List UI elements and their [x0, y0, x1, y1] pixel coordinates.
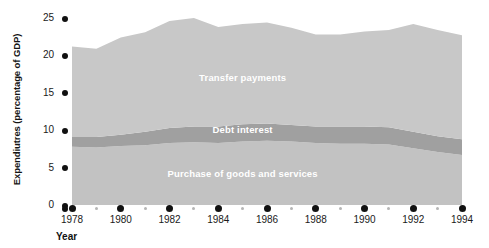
- y-tick-25: 25: [0, 12, 68, 24]
- y-tick-label: 20: [43, 49, 54, 61]
- y-tick-dot: [62, 16, 68, 22]
- x-tick-dot-1984: [215, 205, 222, 212]
- x-tick-dot-1988: [312, 205, 319, 212]
- x-tick-minor-dot-1983: [192, 207, 195, 210]
- y-tick-dot: [62, 165, 68, 171]
- x-tick-minor-dot-1987: [290, 207, 293, 210]
- x-tick-minor-dot-1981: [144, 207, 147, 210]
- y-tick-label: 15: [43, 87, 54, 99]
- band-label-debt-interest: Debt interest: [213, 124, 273, 135]
- x-tick-label-1988: 1988: [296, 214, 336, 225]
- y-tick-dot: [62, 90, 68, 96]
- x-tick-minor-dot-1989: [339, 207, 342, 210]
- x-tick-label-1982: 1982: [150, 214, 190, 225]
- band-label-purchase-of-goods-and-services: Purchase of goods and services: [168, 168, 318, 179]
- x-tick-minor-dot-1991: [387, 207, 390, 210]
- x-tick-dot-1990: [361, 205, 368, 212]
- y-tick-0: 0: [0, 199, 68, 211]
- y-tick-dot: [62, 53, 68, 59]
- x-tick-dot-1980: [117, 205, 124, 212]
- y-tick-5: 5: [0, 162, 68, 174]
- y-axis-title: Expendiutres (percentage of GDP): [11, 10, 22, 210]
- y-tick-dot: [62, 128, 68, 134]
- y-tick-10: 10: [0, 124, 68, 136]
- x-tick-minor-dot-1985: [241, 207, 244, 210]
- x-tick-minor-dot-1993: [436, 207, 439, 210]
- y-tick-label: 5: [48, 162, 54, 174]
- x-axis-title: Year: [56, 231, 77, 242]
- x-tick-minor-dot-1979: [95, 207, 98, 210]
- x-tick-label-1994: 1994: [442, 214, 482, 225]
- x-tick-dot-1992: [410, 205, 417, 212]
- x-tick-label-1992: 1992: [393, 214, 433, 225]
- y-tick-label: 10: [43, 124, 54, 136]
- x-tick-label-1986: 1986: [247, 214, 287, 225]
- y-tick-label: 0: [48, 199, 54, 211]
- band-label-transfer-payments: Transfer payments: [199, 72, 286, 83]
- x-tick-dot-1982: [166, 205, 173, 212]
- x-tick-label-1980: 1980: [101, 214, 141, 225]
- x-tick-label-1984: 1984: [198, 214, 238, 225]
- y-tick-20: 20: [0, 49, 68, 61]
- x-tick-label-1990: 1990: [345, 214, 385, 225]
- chart-container: Expendiutres (percentage of GDP) 2520151…: [0, 0, 489, 248]
- y-tick-label: 25: [43, 12, 54, 24]
- x-tick-dot-1994: [459, 205, 466, 212]
- x-tick-dot-1986: [264, 205, 271, 212]
- origin-dot: [62, 206, 68, 212]
- x-tick-label-1978: 1978: [52, 214, 92, 225]
- x-tick-dot-1978: [69, 205, 76, 212]
- y-tick-15: 15: [0, 87, 68, 99]
